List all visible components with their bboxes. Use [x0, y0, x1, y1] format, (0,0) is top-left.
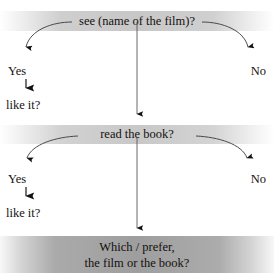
final-question-line-2: the film or the book? [85, 255, 190, 271]
branch-label-no-film: No [251, 64, 266, 79]
followup-label-like-book: like it? [6, 206, 40, 221]
branch-label-yes-book: Yes [8, 172, 26, 187]
question-book-label: read the book? [100, 127, 174, 142]
clipped-title-remnant [0, 0, 274, 7]
final-question-band: Which / prefer, the film or the book? [0, 236, 274, 273]
flowchart-canvas: see (name of the film)? Yes No like it? … [0, 0, 274, 280]
question-film-label: see (name of the film)? [79, 14, 195, 29]
branch-label-no-book: No [251, 172, 266, 187]
followup-label-like-film: like it? [6, 98, 40, 113]
branch-label-yes-film: Yes [8, 64, 26, 79]
question-band-film: see (name of the film)? [0, 11, 274, 31]
question-band-book: read the book? [0, 125, 274, 144]
final-question-line-1: Which / prefer, [99, 239, 175, 255]
